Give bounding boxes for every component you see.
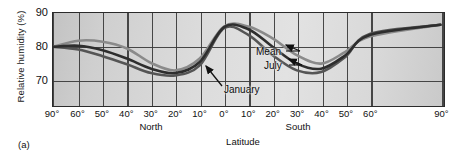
x-tick-40s: 40° bbox=[314, 108, 328, 119]
annotation-january: January bbox=[224, 84, 260, 95]
x-axis-title: Latitude bbox=[226, 136, 260, 147]
x-tick-60n: 60° bbox=[70, 108, 84, 119]
x-tick-30n: 30° bbox=[144, 108, 158, 119]
x-tick-10n: 10° bbox=[192, 108, 206, 119]
x-tick-90s: 90° bbox=[434, 108, 448, 119]
x-tick-30s: 30° bbox=[290, 108, 304, 119]
x-tick-20s: 20° bbox=[266, 108, 280, 119]
x-tick-50s: 50° bbox=[339, 108, 353, 119]
curve-mean bbox=[53, 25, 440, 74]
hemisphere-south: South bbox=[286, 121, 311, 132]
x-tick-0: 0° bbox=[219, 108, 228, 119]
x-tick-60s: 60° bbox=[363, 108, 377, 119]
annotation-mean: Mean bbox=[256, 46, 281, 57]
humidity-latitude-figure: Relative humidity (%) 90 80 70 bbox=[0, 0, 461, 164]
x-tick-40n: 40° bbox=[119, 108, 133, 119]
y-tick-80: 80 bbox=[26, 41, 48, 51]
y-tick-70: 70 bbox=[26, 75, 48, 85]
y-tick-90: 90 bbox=[26, 7, 48, 17]
x-axis-ticks: 90° 60° 50° 40° 30° 20° 10° 0° 10° 20° 3… bbox=[0, 108, 461, 122]
panel-label: (a) bbox=[18, 139, 30, 150]
hemisphere-north: North bbox=[139, 121, 162, 132]
x-tick-10s: 10° bbox=[241, 108, 255, 119]
x-tick-90n: 90° bbox=[45, 108, 59, 119]
x-tick-20n: 20° bbox=[168, 108, 182, 119]
annotation-july: July bbox=[264, 60, 282, 71]
x-tick-50n: 50° bbox=[95, 108, 109, 119]
